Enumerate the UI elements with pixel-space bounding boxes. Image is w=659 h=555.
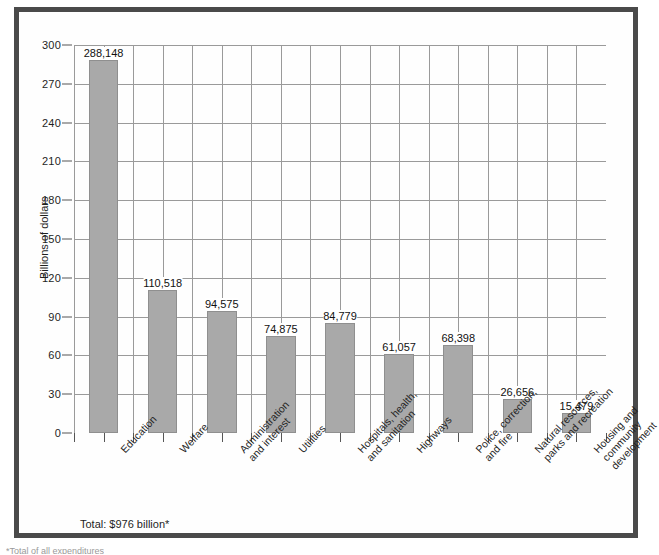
bar[interactable] [325,323,355,433]
y-tick-mark [62,45,72,46]
x-tick-mark [104,433,105,442]
figure-inner-panel: Billions of dollars 03060901201501802102… [19,12,633,533]
footnote-cutoff: *Total of all expenditures [6,546,104,554]
x-axis-ticks [74,433,606,443]
y-tick-mark [62,200,72,201]
bar[interactable] [89,60,119,433]
y-tick-mark [62,433,72,434]
bar-value-label: 288,148 [84,47,124,60]
y-tick-mark [62,83,72,84]
y-tick-mark [62,394,72,395]
x-tick-mark [163,433,164,442]
y-tick-mark [62,161,72,162]
y-tick-mark [62,239,72,240]
plot-area: 0306090120150180210240270300 288,148110,… [74,45,606,433]
bar-value-label: 94,575 [205,298,239,311]
x-tick-mark [74,433,75,442]
bar-value-label: 68,398 [441,332,475,345]
y-tick-mark [62,355,72,356]
x-tick-mark [222,433,223,442]
y-tick-mark [62,277,72,278]
y-tick-mark [62,316,72,317]
bar-value-label: 110,518 [143,277,182,290]
bar[interactable] [148,290,178,433]
x-tick-mark [458,433,459,442]
bar-value-label: 74,875 [264,323,298,336]
bar[interactable] [207,311,237,433]
x-tick-mark [340,433,341,442]
figure-frame: Billions of dollars 03060901201501802102… [14,7,638,538]
y-tick-mark [62,122,72,123]
bar-value-label: 84,779 [323,310,357,323]
total-note: Total: $976 billion* [80,518,169,530]
bar-value-label: 61,057 [382,341,416,354]
